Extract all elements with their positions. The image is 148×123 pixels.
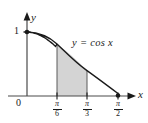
pi-over-2-denominator: 2 xyxy=(110,110,126,118)
x-axis-arrowhead xyxy=(128,93,137,100)
curve-equation-label: y = cos x xyxy=(72,38,113,49)
x-tick-label-pi-over-3: π 3 xyxy=(79,100,95,119)
pi-over-3-numerator: π xyxy=(79,100,95,108)
y-axis-label: y xyxy=(31,12,36,23)
pi-over-6-numerator: π xyxy=(49,100,65,108)
x-tick-label-pi-over-2: π 2 xyxy=(110,100,126,119)
shaded-area-region xyxy=(57,44,87,96)
pi-over-2-numerator: π xyxy=(110,100,126,108)
origin-label: 0 xyxy=(16,98,21,108)
y-axis-arrowhead xyxy=(24,12,31,21)
x-tick-label-pi-over-6: π 6 xyxy=(49,100,65,119)
pi-over-6-denominator: 6 xyxy=(49,110,65,118)
cosine-area-figure: y x 1 0 y = cos x π 6 π 3 π 2 xyxy=(0,0,148,123)
y-tick-label-one: 1 xyxy=(14,26,19,36)
x-axis-label: x xyxy=(138,89,143,100)
pi-over-3-denominator: 3 xyxy=(79,110,95,118)
